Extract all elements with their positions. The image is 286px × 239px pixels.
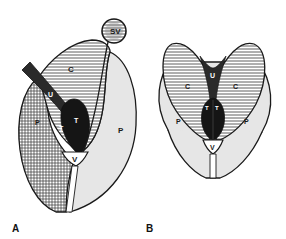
label-peripheral-left-a: P [35,119,40,126]
label-sv-a: SV [110,27,121,36]
label-transition-right-a: T [74,117,79,124]
label-central-a: C [68,65,74,74]
label-transition-right-b: T [215,105,219,111]
panel-a: SV C U T T P P V A [12,19,136,234]
label-transition-left-a: T [59,125,64,132]
label-verumontanum-b: V [210,144,215,151]
panel-label-a: A [12,223,19,234]
label-central-right-b: C [233,83,238,90]
transition-zone-a [61,99,90,152]
label-transition-left-b: T [205,105,209,111]
label-urethra-b: U [210,72,215,79]
label-central-left-b: C [185,83,190,90]
panel-b: C C U T T P P V B [146,43,271,234]
panel-label-b: B [146,223,153,234]
label-peripheral-left-b: P [176,118,181,125]
label-peripheral-right-a: P [118,126,124,135]
prostate-zonal-anatomy-diagram: SV C U T T P P V A C C U T T P P V B [0,0,286,239]
label-peripheral-right-b: P [244,118,249,125]
label-urethra-a: U [48,91,53,98]
distal-urethra-b [210,154,216,178]
label-verumontanum-a: V [72,155,78,164]
